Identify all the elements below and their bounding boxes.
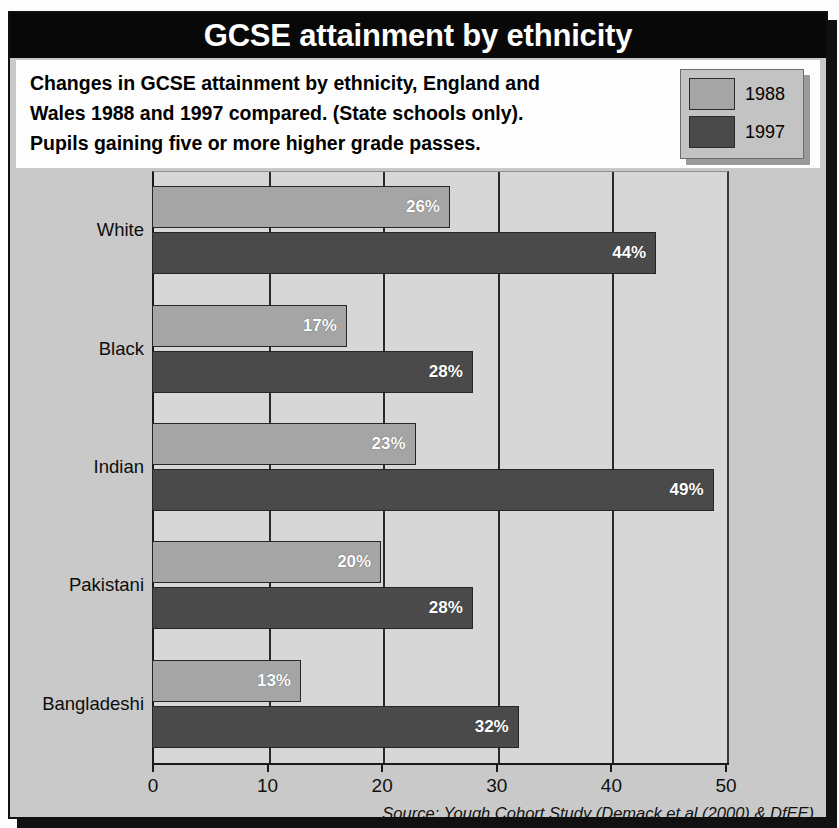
- bar-pakistani-1997: 28%: [152, 587, 473, 629]
- bar-value-label: 28%: [429, 362, 463, 382]
- chart-plot: 01020304050 26%44%17%28%23%49%20%28%13%3…: [10, 163, 826, 817]
- bar-value-label: 20%: [337, 552, 371, 572]
- page-title: GCSE attainment by ethnicity: [204, 18, 632, 54]
- x-tick-label: 50: [715, 775, 736, 797]
- legend-item-1988: 1988: [689, 78, 785, 110]
- bar-indian-1988: 23%: [152, 423, 416, 465]
- bar-value-label: 28%: [429, 598, 463, 618]
- source-note: Source: Yough Cohort Study (Demack et al…: [382, 804, 814, 823]
- category-label-black: Black: [99, 338, 144, 360]
- x-axis-line: [152, 763, 729, 765]
- x-tick: [725, 763, 727, 772]
- bar-pakistani-1988: 20%: [152, 541, 381, 583]
- x-tick-label: 40: [601, 775, 622, 797]
- legend-item-1997: 1997: [689, 116, 785, 148]
- category-label-pakistani: Pakistani: [69, 574, 144, 596]
- legend-swatch-1988: [689, 78, 735, 110]
- legend-swatch-1997: [689, 116, 735, 148]
- x-tick-label: 20: [372, 775, 393, 797]
- caption-line-1: Changes in GCSE attainment by ethnicity,…: [30, 68, 630, 98]
- x-tick-label: 0: [148, 775, 159, 797]
- x-tick: [610, 763, 612, 772]
- bar-black-1988: 17%: [152, 305, 347, 347]
- bar-value-label: 26%: [406, 197, 440, 217]
- legend-label-1988: 1988: [745, 84, 785, 105]
- bar-value-label: 13%: [257, 671, 291, 691]
- x-tick-label: 30: [486, 775, 507, 797]
- bar-indian-1997: 49%: [152, 469, 714, 511]
- bar-white-1997: 44%: [152, 232, 656, 274]
- bar-value-label: 44%: [612, 243, 646, 263]
- category-label-bangladeshi: Bangladeshi: [42, 693, 144, 715]
- chart-legend: 1988 1997: [680, 69, 804, 159]
- x-tick-label: 10: [257, 775, 278, 797]
- x-tick: [496, 763, 498, 772]
- bar-bangladeshi-1997: 32%: [152, 706, 519, 748]
- bar-value-label: 49%: [670, 480, 704, 500]
- caption-line-2: Wales 1988 and 1997 compared. (State sch…: [30, 98, 630, 128]
- x-tick: [381, 763, 383, 772]
- bar-black-1997: 28%: [152, 351, 473, 393]
- caption-text: Changes in GCSE attainment by ethnicity,…: [30, 68, 630, 158]
- x-tick: [267, 763, 269, 772]
- bar-white-1988: 26%: [152, 186, 450, 228]
- bar-value-label: 32%: [475, 717, 509, 737]
- caption-line-3: Pupils gaining five or more higher grade…: [30, 128, 630, 158]
- title-banner: GCSE attainment by ethnicity: [10, 13, 826, 58]
- category-label-indian: Indian: [94, 456, 144, 478]
- figure-frame: GCSE attainment by ethnicity Changes in …: [8, 11, 828, 819]
- bar-value-label: 23%: [372, 434, 406, 454]
- x-tick: [152, 763, 154, 772]
- category-label-white: White: [97, 219, 144, 241]
- legend-label-1997: 1997: [745, 122, 785, 143]
- bar-value-label: 17%: [303, 316, 337, 336]
- bar-bangladeshi-1988: 13%: [152, 660, 301, 702]
